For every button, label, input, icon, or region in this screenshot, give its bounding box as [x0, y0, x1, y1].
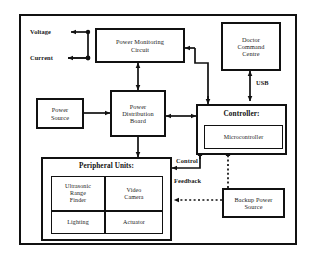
block-lighting[interactable]: Lighting	[51, 211, 105, 234]
edge-label-current: Current	[30, 54, 53, 61]
block-backup-power-source-label: Backup Power Source	[233, 196, 273, 210]
block-backup-power-source[interactable]: Backup Power Source	[222, 188, 285, 218]
block-video-camera-label: Video Camera	[123, 187, 144, 201]
block-doctor-command-centre[interactable]: Doctor Command Centre	[221, 22, 281, 71]
block-peripheral-units-label: Peripheral Units:	[43, 162, 170, 170]
block-video-camera[interactable]: Video Camera	[105, 176, 163, 211]
block-controller-label: Controller:	[198, 110, 285, 118]
block-microcontroller[interactable]: Microcontroller	[204, 125, 283, 149]
block-power-distribution-board[interactable]: Power Distribution Board	[110, 90, 166, 137]
block-microcontroller-label: Microcontroller	[223, 134, 265, 141]
block-actuator-label: Actuator	[122, 219, 146, 226]
block-peripheral-units[interactable]: Peripheral Units: Ultrasonic Range Finde…	[41, 157, 172, 241]
block-power-monitoring-circuit-label: Power Monitoring Circuit	[115, 38, 165, 52]
edge-label-control: Control	[176, 157, 198, 164]
block-doctor-command-centre-label: Doctor Command Centre	[237, 36, 266, 57]
block-power-monitoring-circuit[interactable]: Power Monitoring Circuit	[95, 28, 185, 63]
block-ultrasonic-range-finder[interactable]: Ultrasonic Range Finder	[51, 176, 105, 211]
edge-label-feedback: Feedback	[174, 177, 201, 184]
block-ultrasonic-range-finder-label: Ultrasonic Range Finder	[64, 183, 92, 204]
block-diagram: Power Monitoring Circuit Doctor Command …	[0, 0, 314, 259]
block-controller[interactable]: Controller: Microcontroller	[196, 104, 287, 155]
block-power-distribution-board-label: Power Distribution Board	[121, 103, 155, 124]
block-lighting-label: Lighting	[66, 219, 89, 226]
block-power-source-label: Power Source	[50, 106, 70, 120]
edge-label-usb: USB	[256, 79, 269, 86]
block-actuator[interactable]: Actuator	[105, 211, 163, 234]
block-power-source[interactable]: Power Source	[36, 98, 84, 129]
edge-label-voltage: Voltage	[30, 28, 51, 35]
